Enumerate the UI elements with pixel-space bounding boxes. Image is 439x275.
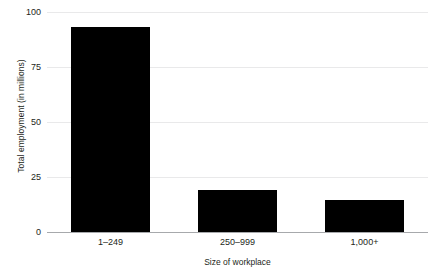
bar-chart: Total employment (in millions) 025507510… xyxy=(0,0,439,275)
bar xyxy=(71,27,150,232)
y-axis-tick-labels: 0255075100 xyxy=(0,0,41,275)
bar xyxy=(325,200,404,232)
y-axis-tick-label: 50 xyxy=(1,118,41,127)
x-axis-tick-label: 1,000+ xyxy=(301,236,428,248)
y-axis-tick-label: 75 xyxy=(1,63,41,72)
bars-layer xyxy=(47,12,428,232)
y-axis-tick-label: 0 xyxy=(1,228,41,237)
x-axis-line xyxy=(47,232,428,233)
y-axis-tick-label: 100 xyxy=(1,8,41,17)
bar xyxy=(198,190,277,232)
x-axis-tick-label: 250–999 xyxy=(174,236,301,248)
y-axis-tick-label: 25 xyxy=(1,173,41,182)
x-axis-tick-labels: 1–249250–9991,000+ xyxy=(47,236,428,250)
x-axis-title: Size of workplace xyxy=(47,256,428,268)
x-axis-tick-label: 1–249 xyxy=(47,236,174,248)
